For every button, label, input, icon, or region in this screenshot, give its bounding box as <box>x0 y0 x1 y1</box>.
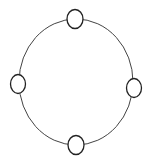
ring-circle <box>19 19 133 145</box>
node-top <box>67 10 83 29</box>
node-left <box>11 75 26 94</box>
node-bottom <box>68 136 84 155</box>
node-right <box>127 79 142 98</box>
ring-diagram <box>0 0 151 165</box>
